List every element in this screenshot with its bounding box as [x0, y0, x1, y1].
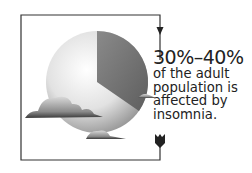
pie-chart [46, 31, 148, 133]
description-line: insomnia. [153, 108, 252, 122]
description-line: of the adult [153, 67, 252, 81]
headline-stat: 30%–40% [153, 46, 243, 68]
description-line: affected by [153, 94, 252, 108]
stat-description: of the adult population is affected by i… [153, 67, 252, 121]
arrow-down-icon [157, 27, 164, 35]
arrow-tail-icon [155, 134, 165, 148]
description-line: population is [153, 81, 252, 95]
